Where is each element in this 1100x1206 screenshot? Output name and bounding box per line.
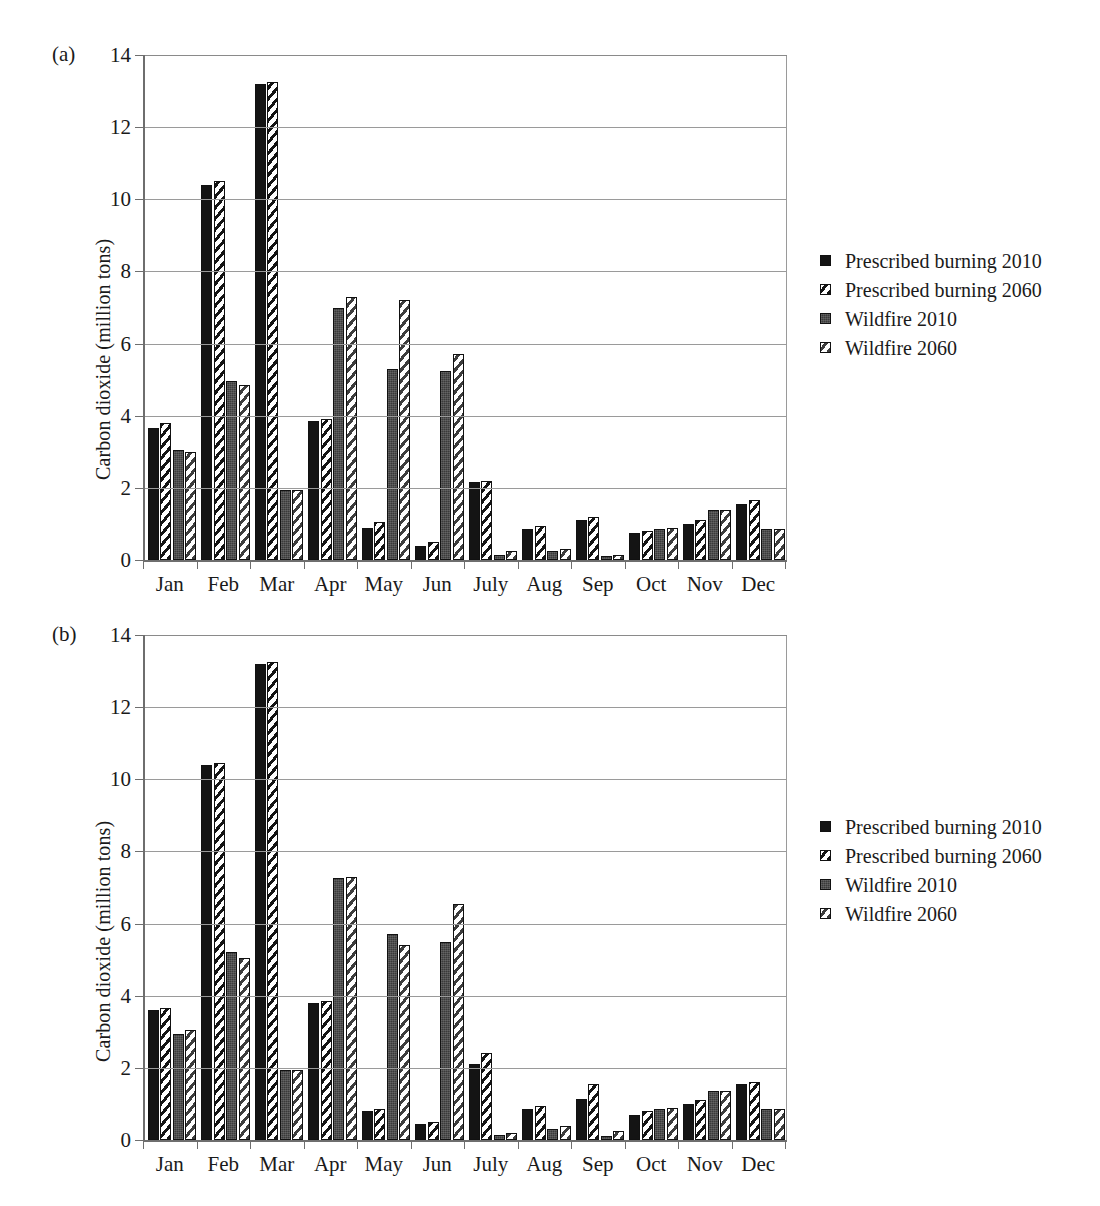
x-tick-mark	[732, 1141, 733, 1149]
bar	[576, 520, 587, 560]
x-tick-label: Jan	[143, 1154, 197, 1175]
bar	[667, 1108, 678, 1140]
bar	[346, 297, 357, 560]
bar	[399, 945, 410, 1140]
bar	[374, 522, 385, 560]
panel-a-legend: Prescribed burning 2010Prescribed burnin…	[820, 246, 1042, 362]
y-tick-mark	[135, 488, 143, 489]
bar	[588, 517, 599, 560]
legend-item: Wildfire 2060	[820, 333, 1042, 362]
x-tick-label: July	[464, 574, 518, 595]
x-tick-label: Dec	[732, 1154, 786, 1175]
x-tick-label: Feb	[197, 1154, 251, 1175]
x-tick-label: Aug	[518, 574, 572, 595]
legend-label: Wildfire 2010	[845, 875, 957, 895]
gridline	[145, 924, 787, 925]
gridline	[145, 635, 787, 636]
bar	[683, 1104, 694, 1140]
bar	[720, 510, 731, 561]
bar	[506, 551, 517, 560]
y-tick-label: 14	[91, 625, 131, 646]
bar	[601, 1136, 612, 1140]
legend-label: Prescribed burning 2060	[845, 846, 1042, 866]
bar	[481, 1053, 492, 1140]
bar	[280, 490, 291, 560]
bar	[321, 1001, 332, 1140]
legend-item: Prescribed burning 2010	[820, 246, 1042, 275]
y-tick-mark	[135, 199, 143, 200]
y-tick-mark	[135, 635, 143, 636]
x-tick-label: Feb	[197, 574, 251, 595]
bar	[547, 1129, 558, 1140]
x-tick-label: Apr	[304, 1154, 358, 1175]
y-tick-label: 10	[91, 769, 131, 790]
gridline	[145, 779, 787, 780]
y-tick-mark	[135, 416, 143, 417]
bar	[736, 1084, 747, 1140]
bar	[201, 185, 212, 560]
legend-item: Wildfire 2010	[820, 304, 1042, 333]
legend-item: Prescribed burning 2060	[820, 275, 1042, 304]
x-tick-label: Oct	[625, 1154, 679, 1175]
legend-swatch-icon	[820, 908, 831, 919]
bar	[654, 529, 665, 560]
bar	[173, 450, 184, 560]
bar	[374, 1109, 385, 1140]
x-tick-label: Nov	[678, 574, 732, 595]
x-tick-mark	[571, 561, 572, 569]
x-tick-mark	[464, 561, 465, 569]
bar	[654, 1109, 665, 1140]
x-tick-mark	[411, 1141, 412, 1149]
legend-swatch-icon	[820, 342, 831, 353]
bar	[629, 533, 640, 560]
panel-b-plot-area	[143, 635, 787, 1142]
bar	[346, 877, 357, 1140]
y-tick-mark	[135, 1140, 143, 1141]
x-tick-label: Jun	[411, 574, 465, 595]
x-tick-mark	[197, 1141, 198, 1149]
y-tick-mark	[135, 996, 143, 997]
legend-label: Prescribed burning 2010	[845, 251, 1042, 271]
x-tick-mark	[785, 1141, 786, 1149]
legend-swatch-icon	[820, 284, 831, 295]
legend-item: Wildfire 2010	[820, 870, 1042, 899]
panel-b-tag: (b)	[52, 622, 77, 647]
bar	[428, 542, 439, 560]
x-tick-mark	[678, 561, 679, 569]
bar	[736, 504, 747, 560]
x-tick-label: Aug	[518, 1154, 572, 1175]
y-tick-mark	[135, 851, 143, 852]
panel-b-bars-layer	[145, 635, 787, 1140]
bar	[642, 531, 653, 560]
bar	[588, 1084, 599, 1140]
x-tick-mark	[411, 561, 412, 569]
bar	[280, 1070, 291, 1140]
bar	[535, 526, 546, 560]
legend-item: Prescribed burning 2010	[820, 812, 1042, 841]
gridline	[145, 851, 787, 852]
x-tick-label: May	[357, 1154, 411, 1175]
bar	[708, 510, 719, 561]
y-tick-mark	[135, 707, 143, 708]
bar	[415, 546, 426, 560]
bar	[560, 1126, 571, 1140]
legend-label: Wildfire 2060	[845, 904, 957, 924]
bar	[333, 878, 344, 1140]
bar	[560, 549, 571, 560]
bar	[749, 500, 760, 560]
y-tick-label: 2	[91, 477, 131, 498]
x-tick-mark	[304, 1141, 305, 1149]
gridline	[145, 271, 787, 272]
bar	[774, 1109, 785, 1140]
y-tick-mark	[135, 779, 143, 780]
y-tick-label: 0	[91, 550, 131, 571]
bar	[761, 1109, 772, 1140]
x-tick-mark	[464, 1141, 465, 1149]
bar	[774, 529, 785, 560]
legend-swatch-icon	[820, 313, 831, 324]
bar	[522, 529, 533, 560]
bar	[214, 181, 225, 560]
y-tick-label: 0	[91, 1130, 131, 1151]
x-tick-mark	[250, 561, 251, 569]
bar	[576, 1099, 587, 1140]
